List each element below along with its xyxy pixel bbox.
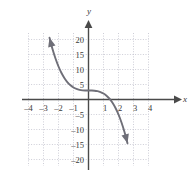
y-tick-label: –10 xyxy=(70,125,84,135)
graph-figure: x y –4 –3 –2 –1 1 2 3 4 20 15 10 5 –5 –1… xyxy=(0,0,195,191)
x-tick-label: –4 xyxy=(23,103,33,113)
y-tick-label: 5 xyxy=(80,80,84,90)
x-tick-label: –3 xyxy=(38,103,48,113)
x-tick-label: 2 xyxy=(118,103,122,113)
x-axis-label: x xyxy=(182,94,187,104)
y-tick-label: 10 xyxy=(76,65,85,75)
x-tick-label: 4 xyxy=(148,103,153,113)
y-tick-label: –20 xyxy=(70,155,84,165)
x-tick-label: 1 xyxy=(103,103,107,113)
y-tick-label: 20 xyxy=(76,35,85,45)
y-axis xyxy=(85,20,93,170)
x-tick-label: –2 xyxy=(53,103,63,113)
y-tick-label: –15 xyxy=(70,140,84,150)
cubic-function-plot: x y –4 –3 –2 –1 1 2 3 4 20 15 10 5 –5 –1… xyxy=(0,0,195,191)
y-tick-label: –5 xyxy=(75,110,85,120)
x-tick-label: 3 xyxy=(133,103,137,113)
y-axis-label: y xyxy=(86,6,91,16)
y-tick-label: 15 xyxy=(76,50,85,60)
